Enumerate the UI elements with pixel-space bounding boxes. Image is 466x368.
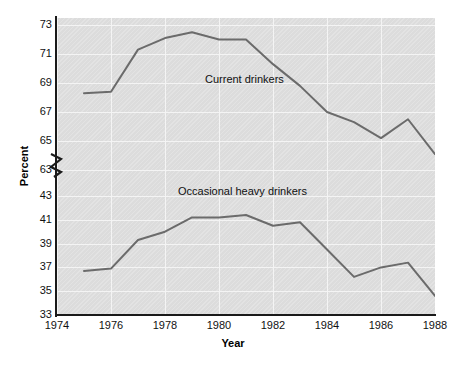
- y-tick-67: 67: [0, 106, 52, 117]
- series-annotation-current-drinkers: Current drinkers: [205, 73, 284, 85]
- data-lines: [57, 18, 435, 315]
- y-tick-41: 41: [0, 214, 52, 225]
- x-axis-line: [55, 314, 436, 316]
- series-line-current-drinkers: [84, 32, 435, 154]
- y-tick-37: 37: [0, 261, 52, 272]
- plot-area: [57, 18, 435, 315]
- x-tick-1978: 1978: [145, 319, 185, 331]
- x-tick-1984: 1984: [307, 319, 347, 331]
- y-tick-73: 73: [0, 19, 52, 30]
- y-tick-71: 71: [0, 48, 52, 59]
- line-chart: 737169676563434139373533 197419761978198…: [0, 0, 466, 368]
- y-tick-35: 35: [0, 285, 52, 296]
- series-annotation-occasional-heavy-drinkers: Occasional heavy drinkers: [178, 185, 307, 197]
- series-line-occasional-heavy-drinkers: [84, 215, 435, 296]
- y-tick-39: 39: [0, 238, 52, 249]
- y-tick-69: 69: [0, 77, 52, 88]
- x-tick-1980: 1980: [199, 319, 239, 331]
- x-axis-title: Year: [0, 337, 466, 349]
- x-tick-1986: 1986: [361, 319, 401, 331]
- x-tick-1976: 1976: [91, 319, 131, 331]
- y-axis-title: Percent: [18, 136, 30, 196]
- x-tick-1974: 1974: [37, 319, 77, 331]
- x-tick-1982: 1982: [253, 319, 293, 331]
- x-tick-1988: 1988: [415, 319, 455, 331]
